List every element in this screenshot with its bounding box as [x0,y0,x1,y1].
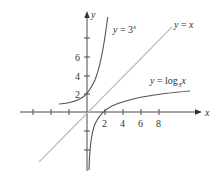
x-axis-arrow-icon [195,109,202,114]
logarithmic-curve [89,91,190,170]
identity-line [39,27,172,162]
y-axis-arrow-icon [84,11,89,18]
x-tick-label: 6 [138,118,143,129]
x-axis-label: x [204,107,210,118]
y-tick-label: 6 [75,52,80,63]
x-axis: x 2 4 6 8 [20,107,210,129]
y-axis-label: y [90,9,96,20]
x-tick-label: 2 [102,118,107,129]
function-graph: x 2 4 6 8 y 2 4 6 y = 3x y = x [0,0,217,177]
y-axis: y 2 4 6 [75,9,96,171]
exponential-label: y = 3x [112,23,137,35]
exponential-curve [59,17,108,104]
logarithmic-label: y = log3x [149,75,186,89]
y-tick-label: 2 [75,89,80,100]
x-tick-label: 8 [156,118,161,129]
x-tick-label: 4 [120,118,125,129]
y-tick-label: 4 [75,71,80,82]
identity-label: y = x [173,19,194,30]
